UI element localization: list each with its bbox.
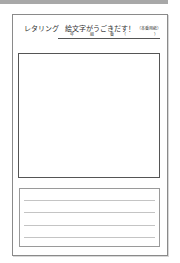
header-note: （本番用紙） bbox=[137, 26, 161, 31]
writing-line bbox=[24, 212, 155, 213]
number-label: 番 bbox=[110, 32, 114, 38]
class-label: 組 bbox=[90, 32, 94, 38]
paren-close: ） bbox=[154, 32, 158, 38]
top-bar bbox=[0, 0, 168, 4]
header-title: レタリング bbox=[24, 25, 59, 33]
drawing-area[interactable] bbox=[18, 53, 160, 178]
name-row: 年 組 番 （ ） bbox=[58, 32, 160, 39]
writing-line bbox=[24, 200, 155, 201]
paren-open: （ bbox=[122, 32, 126, 38]
writing-line bbox=[24, 237, 155, 238]
writing-line bbox=[24, 225, 155, 226]
writing-area[interactable] bbox=[19, 188, 160, 247]
year-label: 年 bbox=[70, 32, 74, 38]
